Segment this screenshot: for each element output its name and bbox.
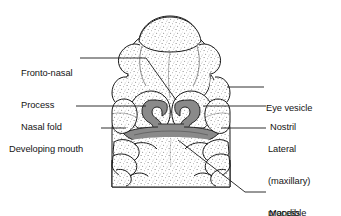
- label-developing-mouth: Developing mouth: [9, 123, 83, 176]
- figure-root: Fronto-nasal Process Nasal fold Developi…: [0, 0, 341, 216]
- clipped-caption: [0, 209, 341, 216]
- mandible: [112, 137, 230, 187]
- label-fronto-nasal-process-line1: Fronto-nasal: [21, 68, 73, 79]
- label-lateral-maxillary-process-line1: Lateral: [268, 144, 310, 155]
- label-lateral-maxillary-process-line2: (maxillary): [268, 176, 310, 187]
- label-developing-mouth-line1: Developing mouth: [9, 144, 83, 155]
